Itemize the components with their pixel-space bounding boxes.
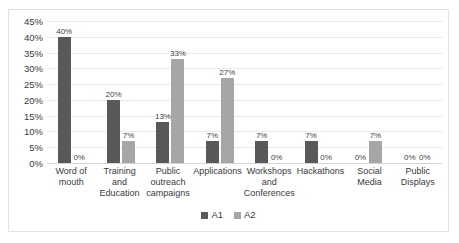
x-axis-category-label: Training and Education — [95, 166, 143, 214]
legend-item-a1[interactable]: A1 — [201, 210, 223, 220]
chart-container: 45%40%35%30%25%20%15%10%5%0% 40%0%20%7%1… — [8, 9, 449, 232]
y-axis-tick-label: 0% — [11, 159, 43, 168]
bar-slot: 7% — [122, 21, 135, 163]
legend-label: A2 — [244, 210, 256, 220]
bar-slot: 0% — [270, 21, 283, 163]
y-axis-tick-label: 20% — [11, 95, 43, 104]
bar-value-label: 20% — [106, 90, 122, 99]
bar-value-label: 7% — [123, 131, 135, 140]
bar-slot: 13% — [156, 21, 169, 163]
legend-label: A1 — [211, 210, 223, 220]
y-axis-tick-label: 30% — [11, 64, 43, 73]
y-axis-tick-label: 40% — [11, 32, 43, 41]
bar-slot: 7% — [255, 21, 268, 163]
y-axis-tick-label: 35% — [11, 48, 43, 57]
bar-value-label: 7% — [207, 131, 219, 140]
bar-slot: 0% — [403, 21, 416, 163]
y-axis: 45%40%35%30%25%20%15%10%5%0% — [11, 21, 43, 163]
y-axis-tick-label: 15% — [11, 111, 43, 120]
bar-slot: 0% — [320, 21, 333, 163]
legend-swatch-icon — [234, 212, 241, 219]
bar-a2[interactable]: 7% — [369, 141, 382, 163]
bar-value-label: 7% — [370, 131, 382, 140]
bar-slot: 7% — [369, 21, 382, 163]
bar-slot: 7% — [206, 21, 219, 163]
bar-value-label: 0% — [404, 153, 416, 162]
bar-value-label: 0% — [73, 153, 85, 162]
x-axis-category-label: Workshops and Conferences — [243, 166, 296, 214]
x-axis-category-label: Hackathons — [296, 166, 346, 214]
bar-value-label: 33% — [170, 49, 186, 58]
bar-slot: 33% — [171, 21, 184, 163]
x-axis-category-labels: Word of mouthTraining and EducationPubli… — [47, 166, 442, 214]
bar-a2[interactable]: 33% — [171, 59, 184, 163]
bar-value-label: 40% — [56, 27, 72, 36]
bar-group: 0%7% — [343, 21, 392, 163]
x-axis-category-label: Word of mouth — [47, 166, 95, 214]
x-axis-category-label: Applications — [192, 166, 243, 214]
bar-group: 20%7% — [96, 21, 145, 163]
y-axis-tick-label: 10% — [11, 127, 43, 136]
y-axis-tick-label: 25% — [11, 80, 43, 89]
x-axis-category-label: Public Displays — [394, 166, 442, 214]
bar-value-label: 7% — [256, 131, 268, 140]
bar-value-label: 0% — [271, 153, 283, 162]
bar-a2[interactable]: 7% — [122, 141, 135, 163]
bar-group: 13%33% — [146, 21, 195, 163]
bar-slot: 20% — [107, 21, 120, 163]
bar-value-label: 0% — [320, 153, 332, 162]
bar-value-label: 0% — [419, 153, 431, 162]
bar-slot: 40% — [58, 21, 71, 163]
bar-value-label: 27% — [219, 68, 235, 77]
bar-slot: 0% — [354, 21, 367, 163]
bar-value-label: 0% — [355, 153, 367, 162]
bar-group: 0%0% — [393, 21, 442, 163]
plot-area: 45%40%35%30%25%20%15%10%5%0% 40%0%20%7%1… — [9, 10, 448, 231]
y-axis-tick-label: 5% — [11, 143, 43, 152]
bar-a1[interactable]: 7% — [206, 141, 219, 163]
bar-group: 7%27% — [195, 21, 244, 163]
chart-legend: A1A2 — [9, 210, 448, 220]
bars-layer: 40%0%20%7%13%33%7%27%7%0%7%0%0%7%0%0% — [47, 21, 442, 163]
x-axis-category-label: Social Media — [345, 166, 393, 214]
bar-slot: 27% — [221, 21, 234, 163]
bar-slot: 7% — [305, 21, 318, 163]
bar-a1[interactable]: 20% — [107, 100, 120, 163]
x-axis-category-label: Public outreach campaigns — [144, 166, 192, 214]
y-axis-tick-label: 45% — [11, 17, 43, 26]
bar-a1[interactable]: 7% — [305, 141, 318, 163]
bar-group: 7%0% — [294, 21, 343, 163]
bar-slot: 0% — [73, 21, 86, 163]
x-axis-baseline — [47, 163, 442, 164]
bar-value-label: 7% — [305, 131, 317, 140]
bar-a1[interactable]: 7% — [255, 141, 268, 163]
legend-swatch-icon — [201, 212, 208, 219]
bar-group: 7%0% — [245, 21, 294, 163]
bar-a2[interactable]: 27% — [221, 78, 234, 163]
bar-group: 40%0% — [47, 21, 96, 163]
bar-value-label: 13% — [155, 112, 171, 121]
bar-a1[interactable]: 13% — [156, 122, 169, 163]
bar-a1[interactable]: 40% — [58, 37, 71, 163]
bar-slot: 0% — [418, 21, 431, 163]
legend-item-a2[interactable]: A2 — [234, 210, 256, 220]
